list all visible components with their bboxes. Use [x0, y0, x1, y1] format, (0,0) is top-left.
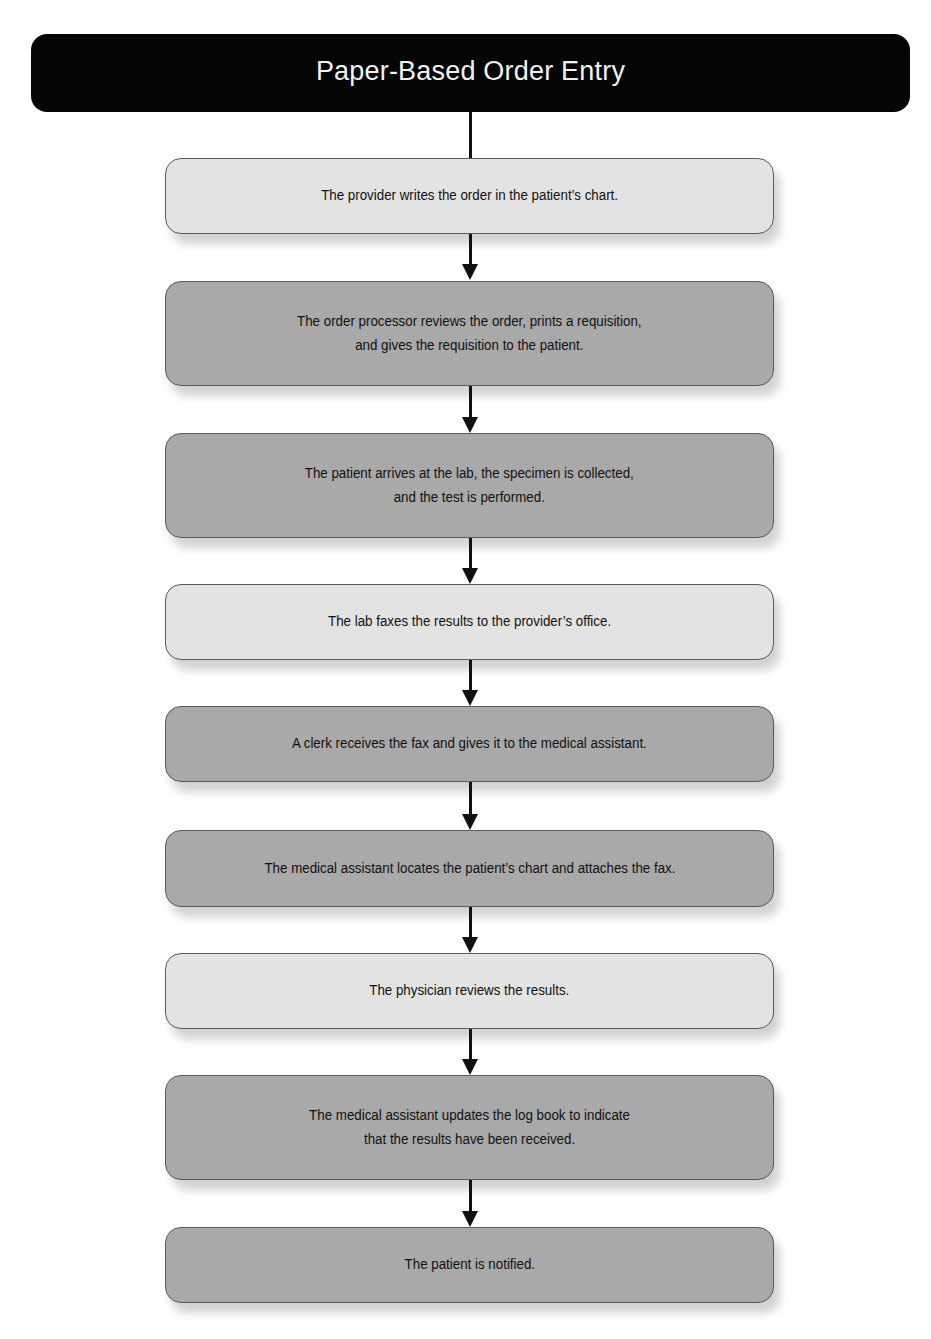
- arrow-down-icon: [462, 937, 478, 953]
- arrow-down-icon: [462, 690, 478, 706]
- flowchart-title: Paper-Based Order Entry: [316, 56, 625, 87]
- step-4-box: The lab faxes the results to the provide…: [165, 584, 774, 660]
- arrow-down-icon: [462, 814, 478, 830]
- arrow-down-icon: [462, 1059, 478, 1075]
- step-8-box: The medical assistant updates the log bo…: [165, 1075, 774, 1180]
- step-5-box: A clerk receives the fax and gives it to…: [165, 706, 774, 782]
- step-5-text: A clerk receives the fax and gives it to…: [292, 731, 647, 755]
- connector-4-5: [469, 660, 472, 690]
- connector-6-7: [469, 907, 472, 937]
- step-1-box: The provider writes the order in the pat…: [165, 158, 774, 234]
- step-1-text: The provider writes the order in the pat…: [321, 183, 618, 207]
- step-2-box: The order processor reviews the order, p…: [165, 281, 774, 386]
- arrow-down-icon: [462, 568, 478, 584]
- arrow-down-icon: [462, 417, 478, 433]
- arrow-down-icon: [462, 264, 478, 280]
- step-7-box: The physician reviews the results.: [165, 953, 774, 1029]
- connector-3-4: [469, 538, 472, 568]
- step-6-box: The medical assistant locates the patien…: [165, 830, 774, 907]
- connector-title-to-step-1: [469, 112, 472, 158]
- connector-1-2: [469, 234, 472, 264]
- step-2-text: The order processor reviews the order, p…: [297, 309, 642, 357]
- connector-2-3: [469, 386, 472, 417]
- arrow-down-icon: [462, 1211, 478, 1227]
- step-8-text: The medical assistant updates the log bo…: [309, 1103, 630, 1151]
- connector-5-6: [469, 782, 472, 814]
- step-9-text: The patient is notified.: [404, 1252, 534, 1276]
- step-7-text: The physician reviews the results.: [369, 978, 569, 1002]
- step-9-box: The patient is notified.: [165, 1227, 774, 1303]
- step-3-text: The patient arrives at the lab, the spec…: [305, 461, 634, 509]
- flowchart-title-bar: Paper-Based Order Entry: [31, 34, 910, 112]
- step-6-text: The medical assistant locates the patien…: [264, 856, 675, 880]
- step-4-text: The lab faxes the results to the provide…: [328, 609, 611, 633]
- step-3-box: The patient arrives at the lab, the spec…: [165, 433, 774, 538]
- connector-7-8: [469, 1029, 472, 1059]
- connector-8-9: [469, 1180, 472, 1211]
